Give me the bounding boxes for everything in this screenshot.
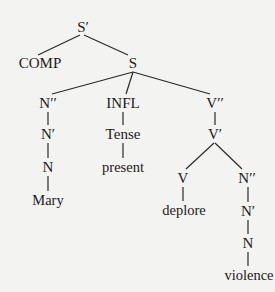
- node-mary: Mary: [32, 193, 63, 208]
- node-s: S: [129, 56, 137, 71]
- node-present: present: [102, 160, 144, 175]
- node-violence: violence: [224, 268, 273, 283]
- node-n-double-bar-subject: N′′: [39, 96, 56, 111]
- edge-vbar-v: [186, 143, 214, 169]
- node-v-double-bar: V′′: [206, 96, 223, 111]
- edge-sbar-s: [84, 35, 128, 55]
- edge-s-vbarbar: [133, 72, 210, 94]
- node-n-subject: N: [43, 160, 54, 175]
- node-n-double-bar-object: N′′: [238, 171, 255, 186]
- node-v-bar: V′: [208, 127, 222, 142]
- node-n-bar-object: N′: [241, 204, 255, 219]
- node-n-bar-subject: N′: [41, 127, 55, 142]
- tree-edges: [0, 0, 275, 292]
- node-tense: Tense: [106, 127, 141, 142]
- node-v: V: [178, 171, 189, 186]
- edge-s-infl: [126, 72, 133, 94]
- node-s-bar: S′: [77, 20, 89, 35]
- node-deplore: deplore: [162, 203, 205, 218]
- node-comp: COMP: [19, 56, 62, 71]
- edge-s-nbarbar: [52, 72, 133, 94]
- edge-sbar-comp: [38, 35, 80, 55]
- edge-vbar-nbarbar-obj: [215, 143, 242, 169]
- node-infl: INFL: [106, 96, 139, 111]
- node-n-object: N: [243, 236, 254, 251]
